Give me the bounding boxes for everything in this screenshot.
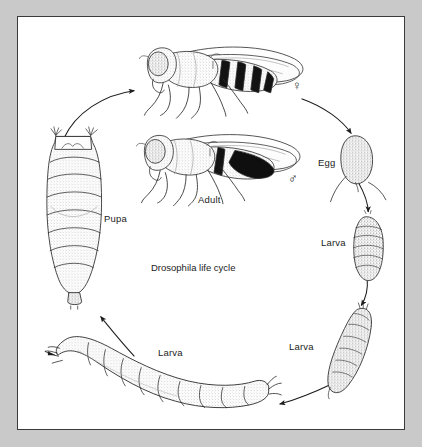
larva-first-illustration <box>353 210 383 281</box>
egg-illustration <box>330 136 386 202</box>
stage-label-larva-first: Larva <box>321 237 346 248</box>
adult-female-illustration <box>139 47 303 119</box>
arrow-egg-to-larva1 <box>358 182 368 212</box>
arrow-female-to-egg <box>302 99 352 134</box>
stage-label-adult: Adult <box>198 194 221 205</box>
arrow-larva2-to-larva3 <box>280 383 334 404</box>
arrow-larva1-to-larva2 <box>361 279 367 306</box>
pupa-illustration <box>47 127 102 310</box>
arrow-pupa-to-adult <box>64 91 135 139</box>
life-cycle-diagram <box>18 17 404 429</box>
female-symbol-icon: ♀ <box>292 79 302 92</box>
figure-frame: Pupa Adult Egg Larva Larva Larva ♀ ♂ Dro… <box>17 16 405 430</box>
stage-label-larva-third: Larva <box>158 347 183 358</box>
larva-second-illustration <box>328 302 372 399</box>
stage-label-larva-second: Larva <box>289 341 314 352</box>
stage-label-pupa: Pupa <box>104 213 127 224</box>
diagram-title: Drosophila life cycle <box>151 262 235 273</box>
male-symbol-icon: ♂ <box>288 172 298 185</box>
stage-label-egg: Egg <box>318 157 336 168</box>
